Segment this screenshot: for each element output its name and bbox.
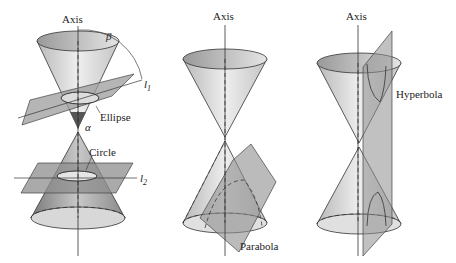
l2-label: l2: [140, 172, 147, 187]
hyperbola-label: Hyperbola: [396, 88, 443, 100]
axis-label-2: Axis: [213, 10, 234, 22]
alpha-label: α: [85, 121, 91, 133]
axis-label-3: Axis: [346, 10, 367, 22]
panel-ellipse-circle: Axis β l1 Ellipse α Circle l2: [14, 13, 151, 256]
conic-sections-diagram: Axis β l1 Ellipse α Circle l2 Axis Parab…: [0, 0, 456, 263]
panel-hyperbola: Axis Hyperbola: [317, 10, 443, 256]
circle-curve: [57, 171, 97, 181]
panel-parabola: Axis Parabola: [183, 10, 279, 256]
circle-label: Circle: [89, 146, 116, 158]
beta-label: β: [105, 30, 112, 42]
parabola-label: Parabola: [240, 240, 279, 252]
parabola-plane: [200, 144, 276, 252]
l1-label: l1: [144, 78, 151, 93]
ellipse-label: Ellipse: [100, 111, 131, 123]
ellipse-curve: [61, 92, 99, 104]
axis-label-1: Axis: [62, 13, 83, 25]
